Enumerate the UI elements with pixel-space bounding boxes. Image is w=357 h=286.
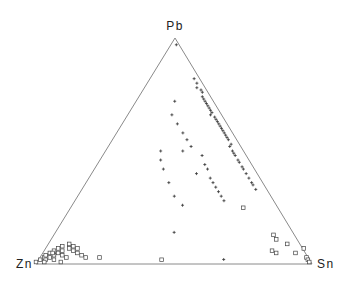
plus-marker [217,190,220,193]
plus-marker [220,195,223,198]
square-marker [302,247,306,251]
plus-marker [181,131,184,134]
plus-marker [159,150,162,153]
square-marker [76,251,80,255]
plus-marker [170,113,173,116]
plus-marker [193,77,196,80]
square-marker [274,238,278,242]
square-marker [56,251,60,255]
square-marker [44,253,48,257]
plus-marker [173,195,176,198]
plus-marker [195,86,198,89]
square-marker [294,251,298,255]
square-marker [307,260,311,264]
plus-marker [212,181,215,184]
vertex-label-sn: Sn [317,257,335,271]
plus-marker [173,231,176,234]
plus-marker [190,145,193,148]
square-marker [272,233,276,237]
square-marker [38,258,42,262]
plus-marker [206,168,209,171]
square-marker [60,249,64,253]
square-marker [160,258,164,262]
square-marker [60,253,64,257]
plus-marker [214,186,217,189]
vertex-label-zn: Zn [16,257,33,271]
square-marker [67,242,71,246]
square-marker [274,251,278,255]
vertex-label-pb: Pb [166,19,184,33]
plus-marker [245,172,248,175]
plus-marker [175,43,178,46]
plus-marker [159,159,162,162]
square-marker [285,242,289,246]
plus-marker [162,168,165,171]
square-marker [270,249,274,253]
plus-marker [173,100,176,103]
plus-marker [203,163,206,166]
square-marker [72,244,76,248]
square-marker [80,253,84,257]
square-marker [65,256,69,260]
edge-pb-zn [36,38,175,264]
square-marker [48,256,52,260]
plus-marker [195,172,198,175]
plus-marker [181,204,184,207]
square-marker [52,258,56,262]
plus-marker [176,122,179,125]
plus-marker [247,177,250,180]
plus-marker [195,82,198,85]
square-marker [76,247,80,251]
plus-marker [201,154,204,157]
plus-marker [209,177,212,180]
plus-marker [167,181,170,184]
plus-marker [222,199,225,202]
ternary-chart: Pb Zn Sn [0,0,357,286]
square-marker [59,260,63,264]
square-marker [34,260,38,264]
square-marker [51,251,55,255]
square-marker [241,206,245,210]
square-marker [60,244,64,248]
plus-marker [222,258,225,261]
square-marker [56,247,60,251]
plus-marker [181,150,184,153]
plus-marker [254,188,257,191]
square-marker [67,247,71,251]
plus-marker [185,138,188,141]
data-points [34,43,311,264]
square-marker [84,256,88,260]
square-marker [72,249,76,253]
square-marker [98,256,102,260]
square-marker [42,260,46,264]
edge-pb-sn [175,38,312,264]
triangle-axes [36,38,312,264]
